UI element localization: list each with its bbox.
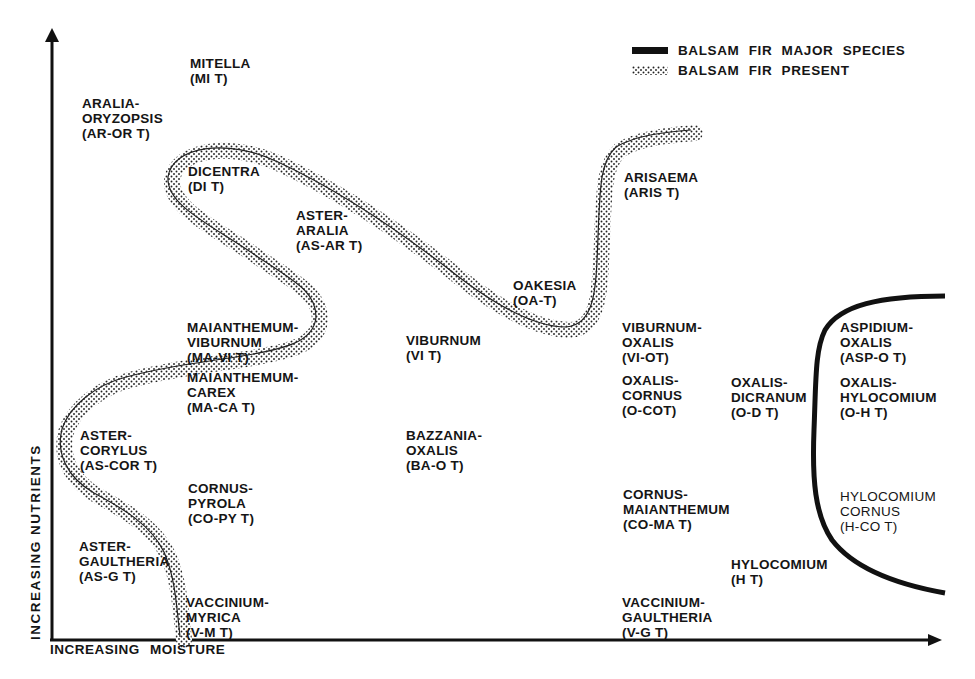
type-code: (AS-G T) bbox=[79, 569, 170, 584]
forest-type-hylocomium-cornus: HYLOCOMIUM CORNUS (H-CO T) bbox=[840, 489, 936, 534]
type-code: (VI T) bbox=[406, 348, 481, 363]
type-name: VACCINIUM- bbox=[622, 595, 713, 610]
type-name: ARALIA- bbox=[82, 96, 163, 111]
type-name: MYRICA bbox=[186, 610, 269, 625]
forest-type-vaccinium-gaultheria: VACCINIUM- GAULTHERIA (V-G T) bbox=[622, 595, 713, 640]
type-name: VIBURNUM bbox=[187, 335, 299, 350]
legend-item-major: BALSAM FIR MAJOR SPECIES bbox=[632, 40, 905, 60]
y-axis-arrow-icon bbox=[45, 28, 59, 42]
type-name: CORNUS- bbox=[623, 487, 730, 502]
type-name: HYLOCOMIUM bbox=[840, 489, 936, 504]
type-code: (AR-OR T) bbox=[82, 126, 163, 141]
forest-type-maianthemum-carex: MAIANTHEMUM- CAREX (MA-CA T) bbox=[187, 370, 299, 415]
type-name: DICRANUM bbox=[731, 390, 807, 405]
type-name: ASTER- bbox=[296, 208, 362, 223]
type-name: PYROLA bbox=[188, 496, 254, 511]
forest-type-oxalis-dicranum: OXALIS- DICRANUM (O-D T) bbox=[731, 375, 807, 420]
type-name: VACCINIUM- bbox=[186, 595, 269, 610]
solid-line-swatch-icon bbox=[632, 46, 668, 55]
type-name: MAIANTHEMUM- bbox=[187, 370, 299, 385]
type-code: (MI T) bbox=[190, 71, 251, 86]
forest-type-aspidium-oxalis: ASPIDIUM- OXALIS (ASP-O T) bbox=[840, 320, 913, 365]
type-name: GAULTHERIA bbox=[622, 610, 713, 625]
type-name: BAZZANIA- bbox=[406, 428, 482, 443]
forest-type-aster-gaultheria: ASTER- GAULTHERIA (AS-G T) bbox=[79, 539, 170, 584]
type-name: CORYLUS bbox=[80, 443, 157, 458]
type-name: OXALIS bbox=[622, 335, 702, 350]
type-name: MAIANTHEMUM- bbox=[187, 320, 299, 335]
type-code: (V-M T) bbox=[186, 625, 269, 640]
type-name: HYLOCOMIUM bbox=[840, 390, 937, 405]
type-name: MAIANTHEMUM bbox=[623, 502, 730, 517]
stipple-swatch-icon bbox=[632, 66, 668, 75]
type-code: (O-COT) bbox=[622, 403, 682, 418]
forest-type-arisaema: ARISAEMA (ARIS T) bbox=[624, 170, 698, 200]
type-name: OXALIS- bbox=[622, 373, 682, 388]
legend: BALSAM FIR MAJOR SPECIES BALSAM FIR PRES… bbox=[632, 40, 905, 80]
type-name: GAULTHERIA bbox=[79, 554, 170, 569]
type-name: CORNUS bbox=[622, 388, 682, 403]
forest-type-bazzania-oxalis: BAZZANIA- OXALIS (BA-O T) bbox=[406, 428, 482, 473]
x-axis-label: INCREASING MOISTURE bbox=[50, 642, 225, 657]
y-axis bbox=[45, 28, 59, 641]
type-code: (AS-COR T) bbox=[80, 458, 157, 473]
forest-type-oakesia: OAKESIA (OA-T) bbox=[513, 278, 577, 308]
type-code: (V-G T) bbox=[622, 625, 713, 640]
forest-type-vaccinium-myrica: VACCINIUM- MYRICA (V-M T) bbox=[186, 595, 269, 640]
type-name: OXALIS bbox=[406, 443, 482, 458]
forest-type-viburnum-oxalis: VIBURNUM- OXALIS (VI-OT) bbox=[622, 320, 702, 365]
type-code: (VI-OT) bbox=[622, 350, 702, 365]
legend-label: BALSAM FIR MAJOR SPECIES bbox=[678, 43, 905, 58]
type-name: OXALIS- bbox=[840, 375, 937, 390]
type-name: CAREX bbox=[187, 385, 299, 400]
forest-type-aster-corylus: ASTER- CORYLUS (AS-COR T) bbox=[80, 428, 157, 473]
type-code: (ASP-O T) bbox=[840, 350, 913, 365]
forest-type-mitella: MITELLA (MI T) bbox=[190, 56, 251, 86]
legend-item-present: BALSAM FIR PRESENT bbox=[632, 60, 905, 80]
forest-type-aster-aralia: ASTER- ARALIA (AS-AR T) bbox=[296, 208, 362, 253]
type-name: ORYZOPSIS bbox=[82, 111, 163, 126]
type-name: CORNUS- bbox=[188, 481, 254, 496]
type-code: (O-H T) bbox=[840, 405, 937, 420]
type-code: (H-CO T) bbox=[840, 519, 936, 534]
type-name: CORNUS bbox=[840, 504, 936, 519]
type-name: ARALIA bbox=[296, 223, 362, 238]
type-code: (CO-MA T) bbox=[623, 517, 730, 532]
type-name: HYLOCOMIUM bbox=[731, 557, 828, 572]
type-name: OXALIS- bbox=[731, 375, 807, 390]
type-code: (H T) bbox=[731, 572, 828, 587]
forest-type-oxalis-cornus: OXALIS- CORNUS (O-COT) bbox=[622, 373, 682, 418]
forest-type-cornus-maianthemum: CORNUS- MAIANTHEMUM (CO-MA T) bbox=[623, 487, 730, 532]
type-code: (ARIS T) bbox=[624, 185, 698, 200]
type-name: ASTER- bbox=[80, 428, 157, 443]
type-name: ASTER- bbox=[79, 539, 170, 554]
forest-type-viburnum: VIBURNUM (VI T) bbox=[406, 333, 481, 363]
legend-label: BALSAM FIR PRESENT bbox=[678, 63, 850, 78]
type-code: (MA-CA T) bbox=[187, 400, 299, 415]
type-name: VIBURNUM- bbox=[622, 320, 702, 335]
type-name: OXALIS bbox=[840, 335, 913, 350]
type-code: (MA-VI T) bbox=[187, 350, 299, 365]
type-name: ASPIDIUM- bbox=[840, 320, 913, 335]
forest-type-oxalis-hylocomium: OXALIS- HYLOCOMIUM (O-H T) bbox=[840, 375, 937, 420]
forest-type-aralia-oryzopsis: ARALIA- ORYZOPSIS (AR-OR T) bbox=[82, 96, 163, 141]
type-name: VIBURNUM bbox=[406, 333, 481, 348]
type-name: DICENTRA bbox=[188, 164, 260, 179]
type-code: (DI T) bbox=[188, 179, 260, 194]
y-axis-label: INCREASING NUTRIENTS bbox=[28, 420, 46, 640]
type-code: (O-D T) bbox=[731, 405, 807, 420]
type-code: (OA-T) bbox=[513, 293, 577, 308]
type-code: (CO-PY T) bbox=[188, 511, 254, 526]
type-name: MITELLA bbox=[190, 56, 251, 71]
forest-type-cornus-pyrola: CORNUS- PYROLA (CO-PY T) bbox=[188, 481, 254, 526]
forest-type-dicentra: DICENTRA (DI T) bbox=[188, 164, 260, 194]
forest-type-maianthemum-viburnum: MAIANTHEMUM- VIBURNUM (MA-VI T) bbox=[187, 320, 299, 365]
type-code: (BA-O T) bbox=[406, 458, 482, 473]
x-axis-arrow-icon bbox=[928, 634, 942, 646]
type-name: ARISAEMA bbox=[624, 170, 698, 185]
forest-type-hylocomium: HYLOCOMIUM (H T) bbox=[731, 557, 828, 587]
forest-type-ordination-diagram: BALSAM FIR MAJOR SPECIES BALSAM FIR PRES… bbox=[0, 0, 975, 679]
type-name: OAKESIA bbox=[513, 278, 577, 293]
type-code: (AS-AR T) bbox=[296, 238, 362, 253]
